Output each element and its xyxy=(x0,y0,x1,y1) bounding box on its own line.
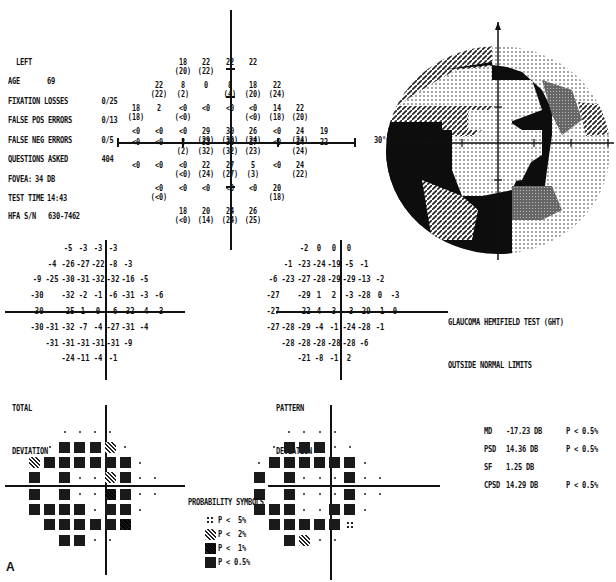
threshold-value: 22 xyxy=(241,58,265,67)
threshold-value: <0 xyxy=(147,127,171,136)
index-name: CPSD xyxy=(484,479,500,491)
info-row: FALSE POS ERRORS0/13 xyxy=(8,114,72,134)
legend-item: P < 5% xyxy=(188,514,285,528)
grid-value: -1 xyxy=(352,260,376,269)
legend-label: P < 2% xyxy=(218,528,246,540)
threshold-value: <0 xyxy=(194,184,218,193)
threshold-value: 0 xyxy=(194,81,218,90)
normal-dot xyxy=(319,431,321,433)
p05-symbol xyxy=(120,472,131,483)
threshold-value: 24(22) xyxy=(288,161,312,179)
threshold-value: 20(18) xyxy=(265,184,289,202)
normal-dot xyxy=(94,431,96,433)
total-deviation-probability xyxy=(25,405,185,575)
normal-dot xyxy=(288,431,290,433)
info-row: FALSE NEG ERRORS0/5 xyxy=(8,134,72,154)
grid-value: -9 xyxy=(116,339,140,348)
grid-value: 2 xyxy=(337,354,361,363)
p05-symbol xyxy=(329,519,340,530)
threshold-value: 24(24) xyxy=(288,138,312,156)
threshold-value: 24(24) xyxy=(218,207,242,225)
normal-dot xyxy=(319,477,321,479)
legend-label: P < 0.5% xyxy=(218,556,250,568)
threshold-value: 18(18) xyxy=(124,104,148,122)
threshold-value: <0 xyxy=(218,104,242,113)
normal-dot xyxy=(79,431,81,433)
p05-symbol xyxy=(29,489,40,500)
threshold-value: <0(<0) xyxy=(171,104,195,122)
normal-dot xyxy=(349,446,351,448)
p05-symbol xyxy=(59,442,70,453)
legend-item: P < 0.5% xyxy=(188,556,285,570)
p05-symbol xyxy=(344,457,355,468)
p05-symbol xyxy=(344,489,355,500)
normal-dot xyxy=(334,539,336,541)
legend-title: PROBABILITY SYMBOLS xyxy=(188,496,264,514)
threshold-value: <0 xyxy=(194,104,218,113)
p05-symbol xyxy=(74,504,85,515)
info-row: AGE69 xyxy=(8,75,72,95)
normal-dot xyxy=(109,431,111,433)
p05-symbol xyxy=(284,489,295,500)
info-label: FIXATION LOSSES xyxy=(8,96,68,106)
axis-tick xyxy=(354,138,356,147)
normal-dot xyxy=(94,493,96,495)
p05-symbol xyxy=(254,472,265,483)
vertical-axis xyxy=(330,405,332,580)
p05-symbol xyxy=(59,519,70,530)
p05-symbol xyxy=(74,442,85,453)
threshold-value: <0 xyxy=(265,161,289,170)
normal-dot xyxy=(109,539,111,541)
info-value: 34 DB xyxy=(35,174,55,184)
normal-dot xyxy=(303,509,305,511)
legend-item: P < 2% xyxy=(188,528,285,542)
axis-tick xyxy=(226,68,235,70)
axis-tick xyxy=(226,96,235,98)
total-deviation-numeric: -5-3-3-3-4-26-27-22-8-3-9-25-30-31-32-32… xyxy=(25,240,185,380)
grid-value: -3 xyxy=(101,244,125,253)
index-p: P < 0.5% xyxy=(566,425,598,437)
p05-symbol xyxy=(74,535,85,546)
p05-symbol xyxy=(299,519,310,530)
p05-symbol xyxy=(59,489,70,500)
normal-dot xyxy=(364,477,366,479)
threshold-value: 26(25) xyxy=(241,207,265,225)
grid-value: -1 xyxy=(101,354,125,363)
info-label: AGE xyxy=(8,76,20,86)
threshold-value: 2 xyxy=(147,104,171,113)
normal-dot xyxy=(139,509,141,511)
normal-dot xyxy=(49,446,51,448)
p05-symbol xyxy=(59,535,70,546)
grid-value: -6 xyxy=(352,339,376,348)
info-value: 0/25 xyxy=(102,95,118,107)
info-row: FOVEA:34 DB xyxy=(8,173,72,193)
info-label: TEST TIME xyxy=(8,192,44,204)
p2-symbol xyxy=(299,535,310,546)
index-value: 1.25 DB xyxy=(506,461,534,473)
pattern-deviation-probability xyxy=(278,405,448,580)
normal-dot xyxy=(139,493,141,495)
index-name: PSD xyxy=(484,443,496,455)
info-value: 0/13 xyxy=(102,114,118,126)
normal-dot xyxy=(379,477,381,479)
p2-symbol xyxy=(105,442,116,453)
normal-dot xyxy=(364,462,366,464)
threshold-value: 22(24) xyxy=(194,161,218,179)
ght-result: GLAUCOMA HEMIFIELD TEST (GHT) OUTSIDE NO… xyxy=(448,292,564,383)
index-p: P < 0.5% xyxy=(566,443,598,455)
threshold-plot: 18(20)22(22)222222(22)8(2)08(4)18(20)22(… xyxy=(118,10,358,250)
p05-symbol xyxy=(74,519,85,530)
p05-symbol xyxy=(329,504,340,515)
p5-symbol xyxy=(346,521,354,529)
normal-dot xyxy=(303,493,305,495)
info-label: FALSE NEG ERRORS xyxy=(8,135,72,145)
info-label: FOVEA: xyxy=(8,173,32,185)
p2-symbol-icon xyxy=(205,529,216,540)
info-value: 0/5 xyxy=(102,134,114,146)
p05-symbol xyxy=(59,472,70,483)
patient-info: LEFT AGE69FIXATION LOSSES0/25FALSE POS E… xyxy=(8,56,90,212)
p05-symbol xyxy=(299,442,310,453)
threshold-value: 5(3) xyxy=(241,161,265,179)
p1-symbol-icon xyxy=(205,543,216,554)
p1-symbol xyxy=(120,519,131,530)
